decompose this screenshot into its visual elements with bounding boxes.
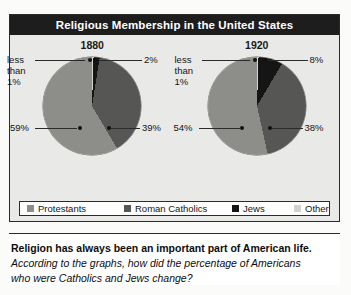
legend-swatch-other-icon (294, 205, 301, 212)
pie-1920-other-label-group: less than 1% (175, 54, 201, 87)
pie-1920-other-label-line2: than (175, 65, 201, 76)
pie-1880-disc (43, 57, 141, 155)
pie-1880-jews-leader (99, 60, 142, 61)
legend-item-other: Other (294, 203, 329, 214)
legend-swatch-protestants-icon (27, 205, 34, 212)
legend-label-protestants: Protestants (38, 203, 86, 214)
pie-1920-other-label-line1: less (175, 54, 201, 65)
charts-area: 1880 1920 less than 1% (10, 35, 339, 201)
legend-label-jews: Jews (243, 203, 265, 214)
figure-panel: Religious Membership in the United State… (9, 14, 340, 222)
year-label-row: 1880 1920 (10, 35, 339, 51)
legend-item-jews: Jews (232, 203, 294, 214)
question-lead: Religion has always been an important pa… (11, 241, 338, 255)
pie-1920-other-label-line3: 1% (175, 76, 201, 87)
chart-year-1880: 1880 (10, 39, 175, 51)
legend-item-roman-catholics: Roman Catholics (124, 203, 232, 214)
pie-1880-other-leader (35, 60, 85, 61)
pie-1920-disc (208, 57, 306, 155)
question-block: Religion has always been an important pa… (9, 233, 340, 285)
chart-legend: Protestants Roman Catholics Jews Other (19, 201, 330, 216)
legend-swatch-roman-catholics-icon (124, 205, 131, 212)
pie-1880-protestants-label: 59% (10, 122, 29, 133)
legend-swatch-jews-icon (232, 205, 239, 212)
pie-1880-other-label-group: less than 1% (7, 54, 33, 87)
legend-item-protestants: Protestants (27, 203, 124, 214)
question-line-2: who were Catholics and Jews change? (11, 271, 338, 285)
figure-title-bar: Religious Membership in the United State… (10, 15, 339, 35)
pie-1920-jews-dot (263, 58, 267, 62)
pie-1920-jews-leader (268, 60, 308, 61)
pie-1920-protestants-leader (199, 128, 241, 129)
pie-1880-other-label-line2: than (7, 65, 33, 76)
pie-chart-1880: less than 1% 2% 59% 39% (10, 51, 175, 191)
question-line-1: According to the graphs, how did the per… (11, 256, 338, 270)
pie-1880-other-label-line3: 1% (7, 76, 33, 87)
pie-1920-other-leader (202, 60, 250, 61)
chart-year-1920: 1920 (175, 39, 340, 51)
pie-1880-jews-label: 2% (144, 54, 158, 65)
pie-1920-other-dot (253, 58, 257, 62)
pie-chart-1920: less than 1% 8% 54% 38% (175, 51, 340, 191)
pie-1920-protestants-label: 54% (174, 122, 193, 133)
pie-1880-catholics-leader (111, 128, 140, 129)
pie-1920-jews-label: 8% (310, 54, 324, 65)
pie-1920-catholics-label: 38% (305, 122, 324, 133)
legend-label-other: Other (305, 203, 329, 214)
pie-charts-row: less than 1% 2% 59% 39% (10, 51, 339, 191)
pie-1880-protestants-leader (35, 128, 77, 129)
figure-title: Religious Membership in the United State… (56, 19, 293, 31)
pie-1920-catholics-leader (272, 128, 303, 129)
worksheet-page: Religious Membership in the United State… (0, 0, 351, 295)
pie-1880-other-label-line1: less (7, 54, 33, 65)
pie-1880-catholics-label: 39% (142, 122, 161, 133)
legend-label-roman-catholics: Roman Catholics (135, 203, 207, 214)
